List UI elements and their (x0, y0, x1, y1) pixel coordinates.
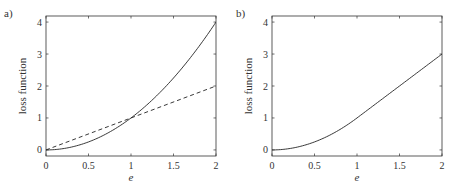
x-tick-label: 1.5 (393, 160, 406, 171)
axes-frame (272, 16, 442, 156)
y-tick-label: 4 (263, 17, 268, 28)
y-tick-label: 1 (37, 112, 42, 123)
y-tick-label: 3 (37, 49, 42, 60)
x-tick-label: 2 (214, 160, 219, 171)
x-axis-label: e (355, 171, 360, 183)
y-tick-label: 2 (263, 81, 268, 92)
x-tick-label: 0.5 (308, 160, 321, 171)
series-squared-loss (46, 22, 216, 150)
x-tick-label: 2 (440, 160, 445, 171)
series-huber-loss (272, 54, 442, 150)
x-tick-label: 0 (270, 160, 275, 171)
y-tick-label: 3 (263, 49, 268, 60)
figure: 00.511.5201234eloss functiona)00.511.520… (0, 0, 463, 187)
chart-panel-b: 00.511.5201234eloss functionb) (236, 7, 445, 183)
x-axis-label: e (129, 171, 134, 183)
panel-label: b) (236, 7, 246, 20)
x-tick-label: 1 (129, 160, 134, 171)
axes-frame (46, 16, 216, 156)
y-tick-label: 4 (37, 17, 42, 28)
y-tick-label: 1 (263, 112, 268, 123)
y-tick-label: 0 (37, 144, 42, 155)
x-tick-label: 1 (355, 160, 360, 171)
y-tick-label: 0 (263, 144, 268, 155)
y-axis-label: loss function (16, 57, 28, 114)
x-tick-label: 0.5 (82, 160, 95, 171)
y-tick-label: 2 (37, 81, 42, 92)
y-axis-label: loss function (242, 57, 254, 114)
panel-label: a) (4, 7, 13, 20)
chart-panel-a: 00.511.5201234eloss functiona) (4, 7, 219, 183)
x-tick-label: 1.5 (167, 160, 180, 171)
x-tick-label: 0 (44, 160, 49, 171)
